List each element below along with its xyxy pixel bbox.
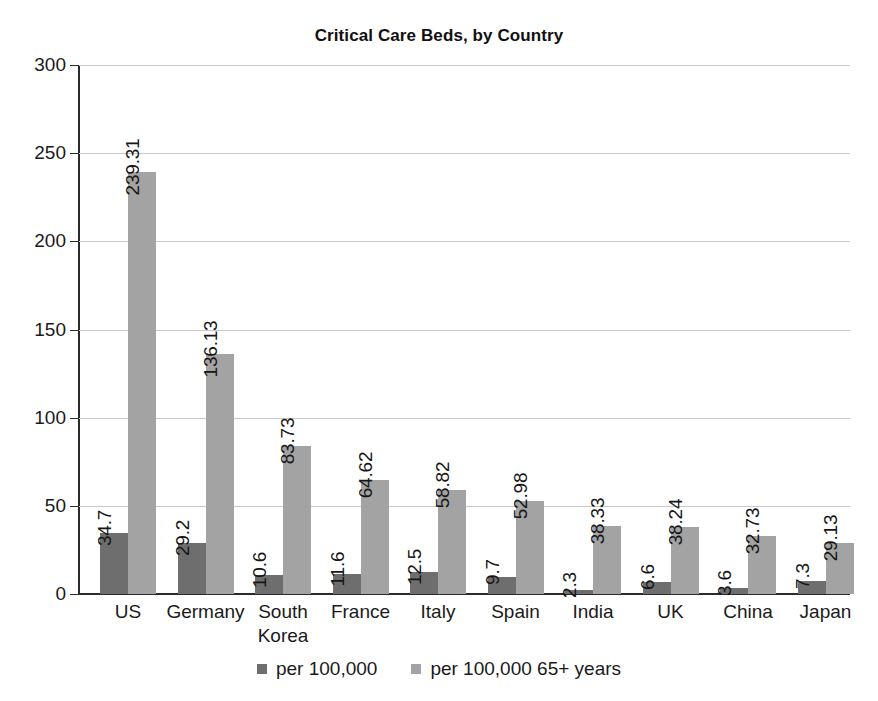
bar-value-label: 83.73 (278, 418, 297, 465)
x-axis-label-italy: Italy (396, 600, 480, 624)
y-axis-tick-label: 100 (10, 408, 66, 427)
y-axis-tick (70, 65, 79, 66)
bar-value-label-anchor: 64.62 (361, 469, 389, 475)
bar-value-label: 7.3 (793, 563, 812, 589)
bar-value-label-anchor: 7.3 (798, 570, 826, 576)
legend-item[interactable]: per 100,000 (257, 659, 377, 678)
y-axis-tick-label: 150 (10, 320, 66, 339)
bar-value-label: 58.82 (433, 462, 452, 509)
bar-value-label-anchor: 58.82 (438, 479, 466, 485)
legend-swatch-icon (411, 664, 421, 674)
x-axis-label-line: UK (629, 600, 713, 624)
bar-value-label-anchor: 3.6 (720, 577, 748, 583)
bar-group: 7.329.13 (798, 65, 854, 594)
bar-value-label: 64.62 (356, 452, 375, 499)
x-axis-label-line: Italy (396, 600, 480, 624)
bar-value-label-anchor: 136.13 (206, 343, 234, 349)
bar-value-label: 38.24 (666, 498, 685, 545)
y-axis-tick (70, 330, 79, 331)
x-axis-label-south-korea: SouthKorea (241, 600, 325, 649)
bar-value-label-anchor: 38.33 (593, 515, 621, 521)
bar-group: 29.2136.13 (178, 65, 234, 594)
bar-value-label-anchor: 10.6 (255, 564, 283, 570)
bar-value-label-anchor: 83.73 (283, 435, 311, 441)
bar-value-label-anchor: 239.31 (128, 161, 156, 167)
x-axis-label-line: South (241, 600, 325, 624)
bar-group: 10.683.73 (255, 65, 311, 594)
y-axis-tick-label: 200 (10, 231, 66, 250)
x-axis-label-us: US (86, 600, 170, 624)
bar[interactable] (283, 446, 311, 594)
legend-item[interactable]: per 100,000 65+ years (411, 659, 621, 678)
bar-value-label: 136.13 (201, 321, 220, 378)
x-axis-label-spain: Spain (474, 600, 558, 624)
y-axis-tick-label: 0 (10, 584, 66, 603)
bar-value-label: 29.13 (821, 514, 840, 561)
bar-value-label: 2.3 (560, 572, 579, 598)
plot-area: 34.7239.3129.2136.1310.683.7311.664.6212… (79, 65, 850, 594)
bar-group: 2.338.33 (565, 65, 621, 594)
chart-title: Critical Care Beds, by Country (0, 26, 878, 46)
bar-value-label: 239.31 (123, 139, 142, 196)
bar-value-label-anchor: 12.5 (410, 561, 438, 567)
x-axis-label-line: Germany (164, 600, 248, 624)
bar[interactable] (128, 172, 156, 594)
x-axis-label-line: China (706, 600, 790, 624)
x-axis-label-japan: Japan (784, 600, 868, 624)
bar-value-label: 34.7 (95, 510, 114, 546)
y-axis-tick-label: 250 (10, 143, 66, 162)
x-axis-label-line: Spain (474, 600, 558, 624)
bar-value-label: 11.6 (328, 551, 347, 586)
y-axis-tick (70, 594, 79, 595)
legend-swatch-icon (257, 664, 267, 674)
bar-value-label-anchor: 11.6 (333, 563, 361, 569)
bar-value-label-anchor: 9.7 (488, 566, 516, 572)
bar-value-label: 38.33 (588, 498, 607, 545)
bar-value-label: 9.7 (483, 559, 502, 585)
x-axis-label-uk: UK (629, 600, 713, 624)
bar-group: 9.752.98 (488, 65, 544, 594)
y-axis-tick-label: 50 (10, 496, 66, 515)
bar-value-label: 52.98 (511, 472, 530, 519)
y-axis-tick (70, 506, 79, 507)
x-axis-label-india: India (551, 600, 635, 624)
x-axis-label-line: Korea (241, 624, 325, 648)
bar-value-label: 10.6 (250, 552, 269, 588)
bar-value-label: 12.5 (405, 549, 424, 585)
y-axis-tick (70, 418, 79, 419)
x-axis-label-germany: Germany (164, 600, 248, 624)
bar-value-label-anchor: 32.73 (748, 525, 776, 531)
bar-group: 12.558.82 (410, 65, 466, 594)
bar-value-label-anchor: 29.2 (178, 532, 206, 538)
bar-value-label: 32.73 (743, 508, 762, 555)
bar[interactable] (206, 354, 234, 594)
bar-value-label-anchor: 52.98 (516, 490, 544, 496)
y-axis-tick (70, 241, 79, 242)
x-axis-label-line: France (319, 600, 403, 624)
x-axis-label-line: US (86, 600, 170, 624)
bar-value-label-anchor: 29.13 (826, 532, 854, 538)
y-axis-tick-label: 300 (10, 55, 66, 74)
bar-value-label-anchor: 2.3 (565, 579, 593, 585)
bar-value-label: 6.6 (638, 564, 657, 590)
chart-legend: per 100,000per 100,000 65+ years (0, 659, 878, 678)
x-axis-label-line: Japan (784, 600, 868, 624)
bar-value-label: 3.6 (715, 570, 734, 596)
bar-group: 11.664.62 (333, 65, 389, 594)
y-axis-tick (70, 153, 79, 154)
bar-value-label-anchor: 38.24 (671, 516, 699, 522)
y-axis-tick-labels: 050100150200250300 (0, 0, 66, 701)
x-axis-category-labels: USGermanySouthKoreaFranceItalySpainIndia… (79, 600, 850, 660)
legend-label: per 100,000 (276, 659, 377, 678)
bar-value-label-anchor: 6.6 (643, 571, 671, 577)
x-axis-label-france: France (319, 600, 403, 624)
bar-group: 34.7239.31 (100, 65, 156, 594)
chart-container: Critical Care Beds, by Country 050100150… (0, 0, 878, 701)
bar-group: 6.638.24 (643, 65, 699, 594)
bar-value-label-anchor: 34.7 (100, 522, 128, 528)
x-axis-label-line: India (551, 600, 635, 624)
bar-group: 3.632.73 (720, 65, 776, 594)
bar-value-label: 29.2 (173, 519, 192, 555)
x-axis-label-china: China (706, 600, 790, 624)
legend-label: per 100,000 65+ years (430, 659, 621, 678)
